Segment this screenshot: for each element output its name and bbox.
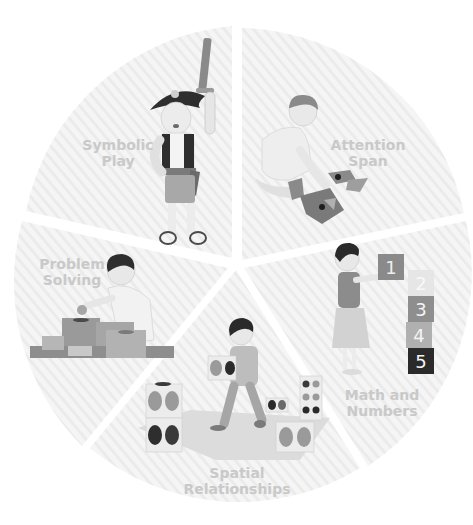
label-spatial-relationships-line2: Relationships	[180, 481, 294, 497]
label-math-and-numbers-line2: Numbers	[340, 403, 424, 419]
number-block-1: 1	[378, 254, 404, 280]
label-attention-span-line2: Span	[328, 153, 408, 169]
svg-text:5: 5	[415, 351, 426, 372]
number-block-4: 4	[406, 322, 432, 348]
label-symbolic-play: Symbolic Play	[80, 137, 156, 169]
label-spatial-relationships-line1: Spatial	[180, 465, 294, 481]
svg-text:1: 1	[385, 257, 396, 278]
label-symbolic-play-line2: Play	[80, 153, 156, 169]
label-math-and-numbers-line1: Math and	[340, 387, 424, 403]
number-block-2: 2	[408, 270, 434, 296]
svg-text:4: 4	[413, 325, 424, 346]
label-attention-span: Attention Span	[328, 137, 408, 169]
label-spatial-relationships: Spatial Relationships	[180, 465, 294, 497]
label-attention-span-line1: Attention	[328, 137, 408, 153]
label-symbolic-play-line1: Symbolic	[80, 137, 156, 153]
label-problem-solving-line2: Solving	[34, 272, 110, 288]
number-block-5: 5	[408, 348, 434, 374]
svg-text:2: 2	[415, 273, 426, 294]
svg-text:3: 3	[415, 299, 426, 320]
label-problem-solving: Problem Solving	[34, 256, 110, 288]
label-math-and-numbers: Math and Numbers	[340, 387, 424, 419]
number-block-3: 3	[408, 296, 434, 322]
label-problem-solving-line1: Problem	[34, 256, 110, 272]
